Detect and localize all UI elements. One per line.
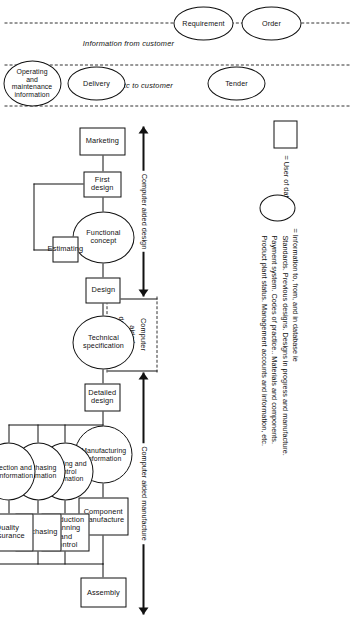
legend-row-database-information: = Information to, from, and in database …: [258, 194, 303, 455]
legend-text-database-line-4: Product plant status. Management account…: [258, 235, 268, 455]
node-design[interactable]: Design: [85, 277, 120, 303]
edge-inspection-information-quality-assurance: [8, 500, 9, 513]
bus-vertical-info: [8, 424, 103, 425]
node-assembly[interactable]: Assembly: [80, 577, 126, 607]
node-label-requirement: Requirement: [182, 19, 224, 27]
node-label-marketing: Marketing: [85, 137, 118, 145]
node-label-inspection-and-test-information: Inspection and test information: [0, 463, 36, 478]
node-label-technical-specification: Technical specification: [77, 334, 129, 350]
node-quality-assurance[interactable]: Quality assurance: [0, 513, 33, 551]
edge-marketing-first-design: [102, 155, 103, 171]
node-label-assembly: Assembly: [87, 588, 120, 596]
node-functional-concept[interactable]: Functional concept: [72, 211, 134, 263]
edge-first-design-estimating-horizontal: [33, 183, 34, 250]
node-label-detailed-design: Detailed design: [88, 389, 116, 406]
legend-text-database-line-3: Payment system. Codes of practice.. Mate…: [268, 235, 278, 455]
span-label-computer-aided-manufacture: Computer aided manufacture: [140, 443, 149, 544]
node-delivery[interactable]: Delivery: [67, 66, 125, 100]
edge-detailed-design-bus: [102, 411, 103, 425]
legend-text-database-line-2: Standards. Previous designs. Designs in …: [278, 235, 288, 455]
node-technical-specification[interactable]: Technical specification: [72, 315, 134, 369]
span-computer-aided-manufacture: Computer aided manufacture: [138, 372, 148, 614]
edge-component-manufacture-assembly: [102, 535, 103, 564]
node-label-operating-and-maintenance-information: Operating and maintenance information: [10, 68, 54, 99]
draughting-bracket-top: [156, 296, 157, 372]
edge-purchasing-assembly: [37, 551, 38, 564]
node-label-design: Design: [91, 286, 115, 294]
edge-purchasing-information-purchasing: [37, 500, 38, 513]
node-label-order: Order: [262, 19, 281, 27]
node-tender[interactable]: Tender: [207, 66, 265, 100]
edge-design-technical-specification: [102, 303, 103, 315]
edge-first-design-functional-concept: [102, 197, 103, 211]
edge-planning-information-production-planning: [64, 500, 65, 513]
edge-production-planning-assembly: [64, 551, 65, 564]
draughting-tick-right: [107, 370, 157, 371]
node-order[interactable]: Order: [241, 6, 301, 40]
edge-manufacturing-information-component-manufacture: [102, 483, 103, 497]
node-estimating[interactable]: Estimating: [52, 236, 78, 262]
legend-ellipse-swatch: [259, 194, 295, 221]
bus-stub-purchasing: [37, 424, 38, 442]
span-label-computer-aided-draughting-line1: Computer: [139, 317, 148, 350]
node-requirement[interactable]: Requirement: [173, 6, 233, 40]
bus-stub-inspection: [8, 424, 9, 442]
node-label-first-design: First design: [90, 176, 114, 193]
bus-stub-planning: [64, 424, 65, 442]
edge-first-design-estimating-vertical: [33, 183, 83, 184]
node-label-estimating: Estimating: [47, 245, 83, 253]
node-label-functional-concept: Functional concept: [78, 229, 128, 245]
edge-functional-concept-design: [102, 263, 103, 277]
node-detailed-design[interactable]: Detailed design: [84, 383, 120, 411]
legend-box-swatch: [273, 120, 297, 148]
node-first-design[interactable]: First design: [83, 171, 121, 197]
edge-technical-specification-detailed-design: [102, 369, 103, 383]
node-label-delivery: Delivery: [83, 79, 110, 87]
node-label-tender: Tender: [225, 79, 248, 87]
span-label-computer-aided-design: Computer aided design: [140, 170, 149, 251]
legend-text-database-line-1: = Information to, from, and in database …: [289, 228, 299, 455]
swimlane-label-info-from-customer: Information from customer: [82, 39, 173, 48]
swimlane-divider-3: [4, 105, 349, 106]
node-label-quality-assurance: Quality assurance: [0, 524, 25, 541]
diagram-canvas: Information from customer Information et…: [0, 0, 353, 627]
span-computer-aided-design: Computer aided design: [138, 126, 148, 296]
legend: = User of database = Information to, fro…: [229, 120, 339, 590]
edge-bus-assembly: [102, 563, 103, 577]
node-operating-and-maintenance-information[interactable]: Operating and maintenance information: [3, 60, 61, 106]
assembly-collector-bus: [0, 563, 103, 564]
node-marketing[interactable]: Marketing: [79, 127, 125, 155]
swimlane-divider-2: [4, 64, 349, 65]
